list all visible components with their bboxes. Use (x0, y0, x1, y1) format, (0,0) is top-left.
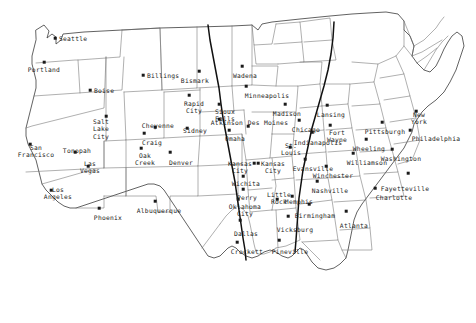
city-label: Lansing (317, 111, 345, 118)
city-dot-icon (291, 195, 294, 198)
city-label: Vicksburg (277, 226, 313, 233)
city-dot-icon (326, 104, 329, 107)
city-dot-icon (228, 129, 231, 132)
city-dot-icon (308, 203, 311, 206)
city-dot-icon (89, 89, 92, 92)
city-dot-icon (242, 188, 245, 191)
city-label: Billings (147, 72, 179, 79)
city-label: Portland (28, 66, 60, 73)
city-dot-icon (143, 132, 146, 135)
city-label: Birmingham (295, 212, 335, 219)
city-label: Minneapolis (245, 92, 289, 99)
city-label: Charlotte (376, 194, 412, 201)
city-label: Phoenix (94, 214, 122, 221)
city-label: Las Vegas (80, 160, 100, 175)
city-dot-icon (245, 85, 248, 88)
city-label: Boise (94, 87, 114, 94)
city-dot-icon (304, 158, 307, 161)
city-label: Crockett (231, 248, 263, 255)
city-dot-icon (188, 94, 191, 97)
city-dot-icon (316, 180, 319, 183)
city-label: Rapid City (184, 100, 204, 115)
city-label: Omaha (225, 135, 245, 142)
city-dot-icon (142, 74, 145, 77)
city-label: Wheeling (353, 145, 385, 152)
city-dot-icon (54, 37, 57, 40)
city-label: Wichita (232, 180, 260, 187)
city-label: Perry (237, 194, 257, 201)
city-label: San Francisco (18, 144, 54, 159)
city-dot-icon (284, 103, 287, 106)
city-label: Dallas (234, 230, 258, 237)
city-label: Washington (381, 155, 421, 162)
city-dot-icon (329, 124, 332, 127)
city-label: Sidney (183, 127, 207, 134)
city-dot-icon (98, 207, 101, 210)
city-label: Des Moines (248, 119, 288, 126)
city-label: New York (411, 111, 427, 126)
city-label: Atkinson (211, 119, 243, 126)
city-dot-icon (391, 148, 394, 151)
city-label: Tonopah (63, 147, 91, 154)
city-dot-icon (198, 70, 201, 73)
city-dot-icon (365, 138, 368, 141)
city-label: Atlanta (340, 222, 368, 229)
city-dot-icon (237, 198, 240, 201)
city-dot-icon (43, 61, 46, 64)
city-label: Salt Lake City (93, 118, 109, 140)
city-label: Pittsburgh (365, 128, 405, 135)
city-label: Denver (169, 159, 193, 166)
city-label: Los Angeles (44, 186, 72, 201)
city-label: Oak Creek (135, 152, 155, 167)
city-dot-icon (239, 219, 242, 222)
city-label: Craig (142, 139, 162, 146)
us-city-map: SeattlePortlandBoiseBillingsBismarkWaden… (0, 0, 476, 323)
city-dot-icon (169, 151, 172, 154)
city-label: Oklahoma City (229, 203, 261, 218)
city-label: Bismark (181, 77, 209, 84)
city-dot-icon (381, 121, 384, 124)
city-label: Kansas City (228, 160, 252, 175)
city-label: Seattle (59, 35, 87, 42)
city-dot-icon (278, 239, 281, 242)
city-dot-icon (352, 152, 355, 155)
city-dot-icon (374, 187, 377, 190)
city-label: Albuquerque (137, 207, 181, 214)
city-dot-icon (154, 200, 157, 203)
city-dot-icon (241, 65, 244, 68)
city-label: Nashville (312, 187, 348, 194)
city-dot-icon (257, 162, 260, 165)
city-label: Madison (273, 110, 301, 117)
city-label: Philadelphia (412, 135, 461, 142)
city-dot-icon (236, 241, 239, 244)
city-dot-icon (325, 165, 328, 168)
city-dot-icon (242, 175, 245, 178)
city-label: Pineville (272, 248, 308, 255)
city-dot-icon (287, 215, 290, 218)
city-dot-icon (409, 129, 412, 132)
city-dot-icon (140, 147, 143, 150)
city-dot-icon (105, 115, 108, 118)
city-dot-icon (345, 210, 348, 213)
city-label: Winchester (313, 172, 353, 179)
city-label: Fort Wayne (327, 129, 347, 144)
city-label: Kansas City (261, 160, 285, 175)
city-label: Wadena (233, 72, 257, 79)
city-dot-icon (218, 103, 221, 106)
city-label: Cheyenne (142, 122, 174, 129)
city-dot-icon (298, 119, 301, 122)
city-label: Chicago (292, 126, 320, 133)
city-dot-icon (253, 162, 256, 165)
city-dot-icon (311, 131, 314, 134)
city-label: Fayetteville (381, 185, 430, 192)
city-dot-icon (407, 172, 410, 175)
